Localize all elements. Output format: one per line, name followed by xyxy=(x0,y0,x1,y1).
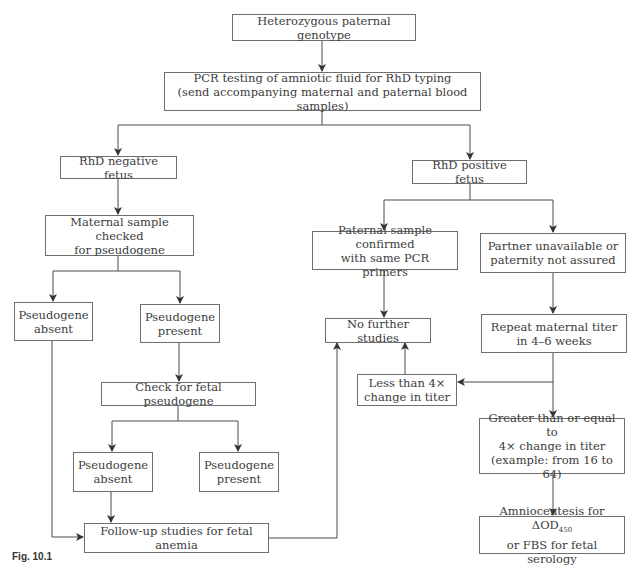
amnio-line-2: or FBS for fetal serology xyxy=(484,538,620,566)
figure-caption: Fig. 10.1 xyxy=(12,551,58,562)
amnio-line-1: Amniocentesis for ΔOD450 xyxy=(484,504,620,537)
node-repeat-maternal-titer: Repeat maternal titer in 4–6 weeks xyxy=(481,314,627,353)
flowchart: Heterozygous paternal genotype PCR testi… xyxy=(0,0,640,569)
node-no-further-studies: No further studies xyxy=(325,318,431,343)
node-rhd-positive-fetus: RhD positive fetus xyxy=(412,160,527,184)
node-pseudogene-absent-fetal: Pseudogene absent xyxy=(73,452,153,492)
node-pseudogene-present-fetal: Pseudogene present xyxy=(199,452,279,492)
node-follow-up-studies: Follow-up studies for fetal anemia xyxy=(84,523,269,553)
node-pseudogene-present-maternal: Pseudogene present xyxy=(140,304,220,343)
amnio-text: Amniocentesis for ΔOD xyxy=(499,504,604,532)
node-maternal-sample-checked: Maternal sample checked for pseudogene xyxy=(45,215,194,256)
node-partner-unavailable: Partner unavailable or paternity not ass… xyxy=(480,233,626,273)
amnio-subscript: 450 xyxy=(559,527,572,535)
node-less-than-4x: Less than 4× change in titer xyxy=(357,374,457,406)
node-greater-than-4x: Greater than or equal to 4× change in ti… xyxy=(479,418,625,474)
node-pcr-testing: PCR testing of amniotic fluid for RhD ty… xyxy=(164,72,481,111)
node-pseudogene-absent-maternal: Pseudogene absent xyxy=(14,302,93,341)
node-amniocentesis: Amniocentesis for ΔOD450 or FBS for feta… xyxy=(479,516,625,554)
figure-label: Fig. 10.1 xyxy=(12,551,52,562)
node-rhd-negative-fetus: RhD negative fetus xyxy=(60,156,177,179)
node-check-fetal-pseudogene: Check for fetal pseudogene xyxy=(101,382,256,406)
node-heterozygous-paternal-genotype: Heterozygous paternal genotype xyxy=(232,14,416,41)
node-paternal-sample-confirmed: Paternal sample confirmed with same PCR … xyxy=(312,231,458,270)
